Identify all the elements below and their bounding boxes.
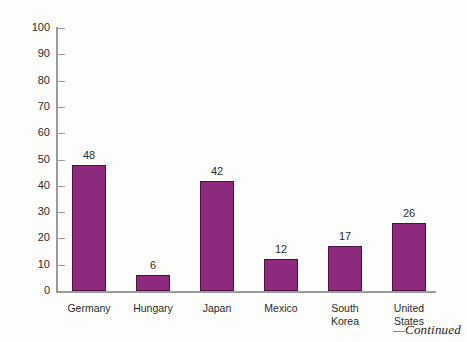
y-axis-tick-label: 100: [6, 22, 50, 33]
x-axis-category-label: Germany: [54, 302, 124, 315]
bar-value-label: 6: [124, 259, 182, 271]
x-axis-category-label: SouthKorea: [310, 302, 380, 327]
bar-value-label: 26: [380, 207, 438, 219]
bar-value-label: 42: [188, 165, 246, 177]
y-axis-tick-label-wrap: 10: [0, 259, 50, 270]
y-axis-tick-label-wrap: 30: [0, 206, 50, 217]
y-axis-tick-label-wrap: 80: [0, 75, 50, 86]
y-axis-tick-label: 60: [6, 127, 50, 138]
bar: [72, 165, 106, 291]
x-axis-category-label: Hungary: [118, 302, 188, 315]
y-axis-tick-label: 0: [6, 285, 50, 296]
x-axis-category-label-line: Mexico: [246, 302, 316, 315]
y-axis-tick-label: 30: [6, 206, 50, 217]
y-axis-tick-label: 20: [6, 232, 50, 243]
x-axis-category-label: Japan: [182, 302, 252, 315]
y-axis-tick: [58, 265, 65, 266]
y-axis-tick: [58, 133, 65, 134]
y-axis-tick-label: 90: [6, 48, 50, 59]
bar: [328, 246, 362, 291]
y-axis-tick: [58, 81, 65, 82]
y-axis-tick: [58, 212, 65, 213]
y-axis-tick-label: 70: [6, 101, 50, 112]
y-axis-tick-label-wrap: 70: [0, 101, 50, 112]
y-axis-tick: [58, 186, 65, 187]
y-axis-tick-label-wrap: 60: [0, 127, 50, 138]
y-axis-tick-label-wrap: 0: [0, 285, 50, 296]
y-axis-tick: [58, 291, 65, 292]
y-axis-tick-label: 50: [6, 154, 50, 165]
bar-value-label: 12: [252, 243, 310, 255]
bar: [264, 259, 298, 291]
y-axis-tick: [58, 107, 65, 108]
bar: [392, 223, 426, 291]
y-axis-tick-label: 10: [6, 259, 50, 270]
y-axis-tick: [58, 28, 65, 29]
bar: [136, 275, 170, 291]
x-axis-category-label-line: United: [374, 302, 444, 315]
x-axis-category-label-line: Japan: [182, 302, 252, 315]
x-axis-category-label-line: Germany: [54, 302, 124, 315]
y-axis-tick-label: 40: [6, 180, 50, 191]
x-axis-line: [56, 291, 436, 293]
y-axis-tick-label-wrap: 50: [0, 154, 50, 165]
bar-value-label: 17: [316, 230, 374, 242]
y-axis-tick-label-wrap: 20: [0, 232, 50, 243]
y-axis-tick: [58, 238, 65, 239]
continued-note: —Continued: [393, 322, 461, 338]
y-axis-tick-label: 80: [6, 75, 50, 86]
bar: [200, 181, 234, 291]
y-axis-tick-label-wrap: 90: [0, 48, 50, 59]
bar-chart-figure: 0102030405060708090100 48642121726 Germa…: [0, 0, 467, 342]
y-axis-tick: [58, 54, 65, 55]
x-axis-category-label: Mexico: [246, 302, 316, 315]
bar-value-label: 48: [60, 149, 118, 161]
y-axis-tick-label-wrap: 100: [0, 22, 50, 33]
x-axis-category-label-line: Hungary: [118, 302, 188, 315]
y-axis-tick-label-wrap: 40: [0, 180, 50, 191]
x-axis-category-label-line: Korea: [310, 315, 380, 328]
x-axis-category-label-line: South: [310, 302, 380, 315]
